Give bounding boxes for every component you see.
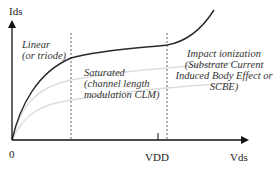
saturated-line-2: (channel length	[84, 78, 160, 89]
x-axis-label: Vds	[230, 152, 248, 163]
impact-line-3: Induced Body Effect or	[170, 70, 278, 81]
origin-label: 0	[9, 149, 15, 160]
vdd-label: VDD	[145, 152, 169, 163]
impact-line-4: SCBE)	[170, 81, 278, 92]
saturated-region-label: Saturated (channel length modulation CLM…	[84, 67, 160, 100]
ids-vds-diagram: Ids Vds 0 VDD Linear (or triode) Saturat…	[0, 0, 278, 170]
impact-line-2: (Substrate Current	[170, 59, 278, 70]
linear-line-2: (or triode)	[22, 50, 66, 61]
saturated-line-1: Saturated	[84, 67, 160, 78]
linear-line-1: Linear	[22, 39, 66, 50]
saturated-line-3: modulation CLM)	[84, 89, 160, 100]
impact-line-1: Impact ionization	[170, 48, 278, 59]
impact-region-label: Impact ionization (Substrate Current Ind…	[170, 48, 278, 92]
linear-region-label: Linear (or triode)	[22, 39, 66, 61]
y-axis-label: Ids	[9, 6, 22, 17]
